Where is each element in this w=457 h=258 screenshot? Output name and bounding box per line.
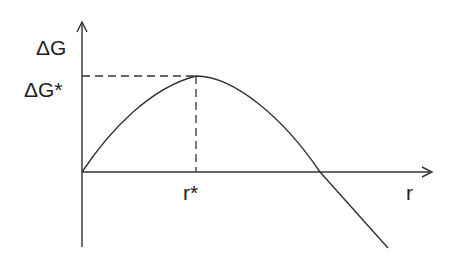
x-axis-label: r: [406, 181, 413, 204]
critical-radius-label: r*: [183, 181, 198, 204]
energy-curve: [82, 76, 388, 248]
y-axis-label: ΔG: [36, 36, 66, 59]
peak-energy-label: ΔG*: [24, 78, 63, 101]
energy-diagram: ΔG ΔG* r* r: [0, 0, 457, 258]
